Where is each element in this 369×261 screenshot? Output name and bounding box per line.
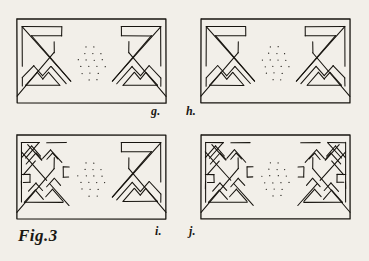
engraved-plate-figure-3 — [0, 0, 369, 261]
paper-background — [0, 0, 369, 261]
